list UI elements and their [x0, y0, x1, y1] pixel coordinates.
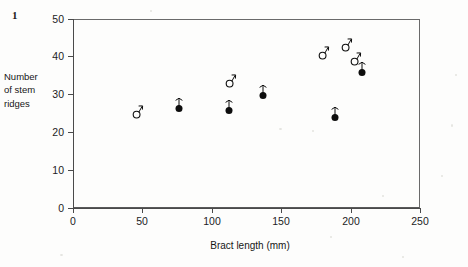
female-symbol-icon: [327, 106, 343, 124]
plot-frame: [73, 19, 420, 208]
y-tick-mark: [68, 19, 73, 20]
x-tick-mark: [351, 208, 352, 213]
y-axis-title-line: Number: [4, 70, 62, 83]
figure-number: 1: [12, 9, 18, 21]
y-tick-label: 50: [38, 14, 64, 25]
scan-speck: [150, 10, 152, 12]
x-tick-label: 100: [192, 216, 232, 227]
y-tick-mark: [68, 170, 73, 171]
y-tick-label: 40: [38, 51, 64, 62]
female-symbol-icon: [255, 84, 271, 102]
y-axis-title: Number of stem ridges: [4, 70, 62, 110]
male-symbol-icon: [315, 44, 331, 62]
female-symbol-icon: [354, 61, 370, 79]
x-tick-label: 200: [331, 216, 371, 227]
y-tick-label: 10: [38, 165, 64, 176]
y-axis-title-line: of stem: [4, 83, 62, 96]
x-tick-mark: [142, 208, 143, 213]
x-axis-title: Bract length (mm): [140, 240, 360, 251]
x-tick-label: 250: [400, 216, 440, 227]
y-axis-title-line: ridges: [4, 97, 62, 110]
female-symbol-icon: [221, 99, 237, 117]
male-symbol-icon: [129, 103, 145, 121]
x-tick-mark: [73, 208, 74, 213]
x-tick-mark: [420, 208, 421, 213]
scan-speck: [330, 236, 332, 238]
x-axis-line: [73, 208, 421, 209]
y-tick-label: 0: [38, 203, 64, 214]
x-tick-label: 0: [53, 216, 93, 227]
scan-speck: [451, 124, 453, 127]
y-tick-mark: [68, 94, 73, 95]
x-tick-label: 150: [261, 216, 301, 227]
male-symbol-icon: [222, 72, 238, 90]
x-tick-mark: [212, 208, 213, 213]
scan-speck: [455, 74, 457, 76]
y-tick-mark: [68, 132, 73, 133]
x-tick-mark: [281, 208, 282, 213]
scan-speck: [441, 175, 443, 177]
y-tick-label: 20: [38, 127, 64, 138]
scan-speck: [402, 256, 404, 258]
y-tick-mark: [68, 56, 73, 57]
figure-page: 1 0 10 20 30 40 50 0 50 100 150 200 250 …: [0, 0, 468, 267]
scan-speck: [60, 254, 63, 256]
y-axis-line: [73, 19, 74, 209]
female-symbol-icon: [171, 97, 187, 115]
x-tick-label: 50: [122, 216, 162, 227]
